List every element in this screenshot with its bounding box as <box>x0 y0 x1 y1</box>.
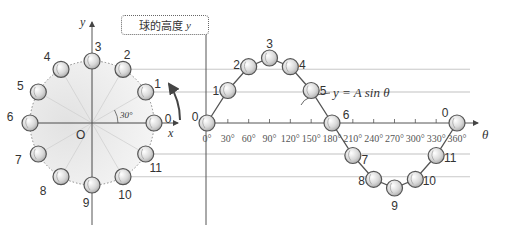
graph-point-label: 0 <box>442 106 449 120</box>
theta-axis-label: θ <box>482 127 489 142</box>
theta-tick-label: 300° <box>406 133 425 144</box>
sine-wave-diagram: 30° x y O 01234567891011 θ 0°30°60°90°12… <box>0 0 508 231</box>
graph-ball-8 <box>366 171 382 187</box>
theta-tick-label: 180° <box>323 133 342 144</box>
circle-point-label: 1 <box>154 77 161 91</box>
graph-point-label: 10 <box>423 174 437 188</box>
x-axis-label: x <box>167 126 174 140</box>
graph-ball-10 <box>407 171 423 187</box>
theta-tick-label: 60° <box>242 133 256 144</box>
theta-tick-label: 0° <box>203 133 212 144</box>
theta-tick-label: 210° <box>343 133 362 144</box>
circle-ball-7 <box>30 146 46 162</box>
graph-point-label: 7 <box>361 153 368 167</box>
graph-point-label: 6 <box>343 108 350 122</box>
graph-point-label: 2 <box>233 58 240 72</box>
graph-point-label: 8 <box>358 174 365 188</box>
graph-point-label: 9 <box>391 199 398 213</box>
circle-ball-10 <box>115 169 131 185</box>
circle-ball-3 <box>84 53 100 69</box>
circle-ball-2 <box>115 61 131 77</box>
circle-ball-11 <box>138 146 154 162</box>
graph-ball-4 <box>282 59 298 75</box>
graph-ball-0 <box>199 115 215 131</box>
circle-ball-4 <box>53 61 69 77</box>
graph-balls: 012345678910110 <box>192 37 465 213</box>
circle-point-label: 8 <box>40 184 47 198</box>
graph-ball-3 <box>262 50 278 66</box>
circle-ball-6 <box>22 115 38 131</box>
circle-point-label: 2 <box>124 48 131 62</box>
circle-point-label: 7 <box>15 153 22 167</box>
graph-point-label: 4 <box>299 58 306 72</box>
theta-tick-label: 120° <box>281 133 300 144</box>
circle-point-label: 3 <box>95 40 102 54</box>
graph-ball-2 <box>241 59 257 75</box>
circle-point-label: 11 <box>149 161 162 175</box>
graph-point-label: 0 <box>192 110 199 124</box>
graph-ball-9 <box>387 180 403 196</box>
graph-ball-6 <box>324 115 340 131</box>
circle-point-label: 5 <box>17 79 24 93</box>
circle-ball-5 <box>30 84 46 100</box>
graph-ball-11 <box>428 148 444 164</box>
circle-point-label: 0 <box>165 112 172 126</box>
circle-point-label: 6 <box>7 110 14 124</box>
graph-point-label: 3 <box>266 37 273 51</box>
formula-label: y = A sin θ <box>331 85 390 100</box>
graph-ball-12 <box>449 115 465 131</box>
theta-tick-label: 150° <box>302 133 321 144</box>
graph-ball-1 <box>220 83 236 99</box>
y-axis-label: y <box>79 15 86 29</box>
origin-label: O <box>76 128 85 142</box>
circle-ball-0 <box>146 115 162 131</box>
ball-height-label: 球的高度y <box>121 15 209 35</box>
theta-tick-label: 330° <box>427 133 446 144</box>
circle-ball-8 <box>53 169 69 185</box>
graph-ball-5 <box>303 83 319 99</box>
circle-point-label: 4 <box>44 50 51 64</box>
graph-point-label: 1 <box>212 84 219 98</box>
graph-point-label: 11 <box>444 151 457 165</box>
angle-label: 30° <box>119 110 133 120</box>
circle-point-label: 9 <box>83 196 90 210</box>
theta-tick-label: 360° <box>448 133 467 144</box>
circle-point-label: 10 <box>118 188 132 202</box>
theta-tick-label: 240° <box>364 133 383 144</box>
graph-ball-7 <box>345 148 361 164</box>
theta-tick-label: 30° <box>221 133 235 144</box>
graph-point-label: 5 <box>320 84 327 98</box>
theta-tick-label: 90° <box>263 133 277 144</box>
theta-tick-label: 270° <box>385 133 404 144</box>
circle-ball-9 <box>84 177 100 193</box>
circle-ball-1 <box>138 84 154 100</box>
